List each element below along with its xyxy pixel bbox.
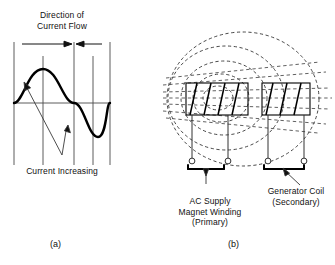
secondary-coil: [262, 83, 310, 115]
terminal-leads: [189, 115, 307, 164]
primary-windings: [190, 83, 239, 115]
magnetic-field-lines: [167, 32, 319, 166]
figure-root: Direction of Current Flow Current Increa…: [0, 0, 335, 265]
secondary-leader: [283, 168, 300, 185]
secondary-label: Generator Coil (Secondary): [258, 186, 334, 207]
primary-label: AC Supply Magnet Winding (Primary): [160, 196, 260, 228]
primary-leader: [203, 169, 209, 185]
secondary-windings: [266, 83, 301, 115]
caption-b: (b): [228, 239, 239, 249]
primary-coil: [186, 83, 248, 115]
